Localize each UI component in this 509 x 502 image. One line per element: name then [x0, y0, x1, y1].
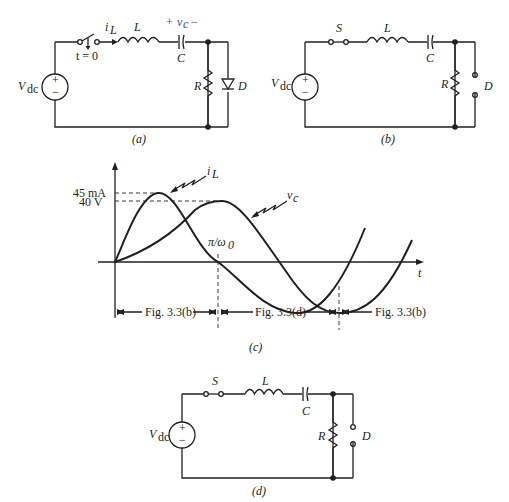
inductor-icon [118, 38, 159, 43]
capacitor-icon [428, 35, 433, 49]
svg-text:−: − [302, 85, 309, 99]
diode-open-terminal-icon [351, 425, 356, 430]
interval-label-2: Fig. 3.3(d) [255, 305, 306, 319]
source-label: V [271, 76, 280, 90]
inductor-label: L [133, 20, 141, 34]
source-label: V [18, 79, 27, 93]
diode-label: D [361, 429, 371, 443]
capacitor-icon [303, 387, 308, 401]
inductor-label: L [261, 374, 269, 388]
svg-text:0: 0 [228, 238, 234, 252]
capacitor-label: C [426, 51, 435, 65]
interval-label-3: Fig. 3.3(b) [375, 305, 426, 319]
switch-label: S [212, 374, 218, 388]
caption-c: (c) [249, 340, 262, 354]
caption-a: (a) [132, 132, 146, 146]
diode-icon [222, 79, 234, 89]
caption-b: (b) [381, 132, 395, 146]
circuit-figure: + − V dc t = 0 i L L C + v c − R D (a) [0, 0, 509, 502]
x-axis-arrow-icon [416, 259, 424, 265]
y-axis-arrow-icon [112, 162, 118, 170]
svg-text:dc: dc [158, 430, 169, 444]
source-label: V [149, 427, 158, 441]
source-minus: − [52, 85, 59, 99]
x-axis-label: t [418, 266, 422, 280]
svg-text:−: − [179, 433, 186, 447]
svg-text:−: − [191, 15, 198, 29]
voltage-pointer-icon [253, 201, 287, 216]
resistor-label: R [193, 79, 202, 93]
svg-text:L: L [109, 23, 117, 37]
switch-terminal-icon [329, 40, 334, 45]
resistor-label: R [317, 429, 326, 443]
current-label: i [105, 20, 108, 34]
voltage-curve [115, 201, 412, 313]
circuit-d: + − V dc S L C R D (d) [149, 374, 371, 498]
waveform-chart: t 45 mA 40 V π/ω 0 i L v c Fig. 3.3(b) F… [73, 162, 426, 354]
switch-terminal-icon [344, 40, 349, 45]
diode-label: D [483, 79, 493, 93]
capacitor-icon [179, 35, 184, 49]
y-label-voltage: 40 V [79, 195, 103, 209]
circuit-b: + − V dc S L C R D (b) [271, 21, 493, 146]
switch-terminal-icon [78, 40, 83, 45]
current-pointer-icon [172, 176, 206, 191]
marker-label: π/ω [208, 235, 226, 249]
capacitor-label: C [302, 404, 311, 418]
capacitor-label: C [177, 51, 186, 65]
caption-d: (d) [252, 484, 266, 498]
interval-label-1: Fig. 3.3(b) [145, 305, 196, 319]
switch-terminal-icon [204, 392, 209, 397]
svg-text:dc: dc [280, 79, 291, 93]
svg-text:c: c [293, 191, 299, 205]
resistor-label: R [440, 77, 449, 91]
current-curve-label: i [207, 164, 210, 178]
inductor-icon [367, 38, 408, 43]
diode-label: D [237, 79, 247, 93]
svg-text:+: + [166, 15, 173, 29]
switch-terminal-icon [219, 392, 224, 397]
inductor-icon [245, 390, 283, 395]
svg-text:c: c [183, 17, 189, 31]
switch-terminal-icon [95, 40, 100, 45]
inductor-label: L [383, 21, 391, 35]
source-sub: dc [27, 82, 38, 96]
switch-label: S [336, 21, 342, 35]
switch-label: t = 0 [76, 49, 98, 63]
circuit-a: + − V dc t = 0 i L L C + v c − R D (a) [18, 15, 247, 146]
svg-text:L: L [211, 167, 219, 181]
current-arrow-icon [112, 39, 118, 45]
